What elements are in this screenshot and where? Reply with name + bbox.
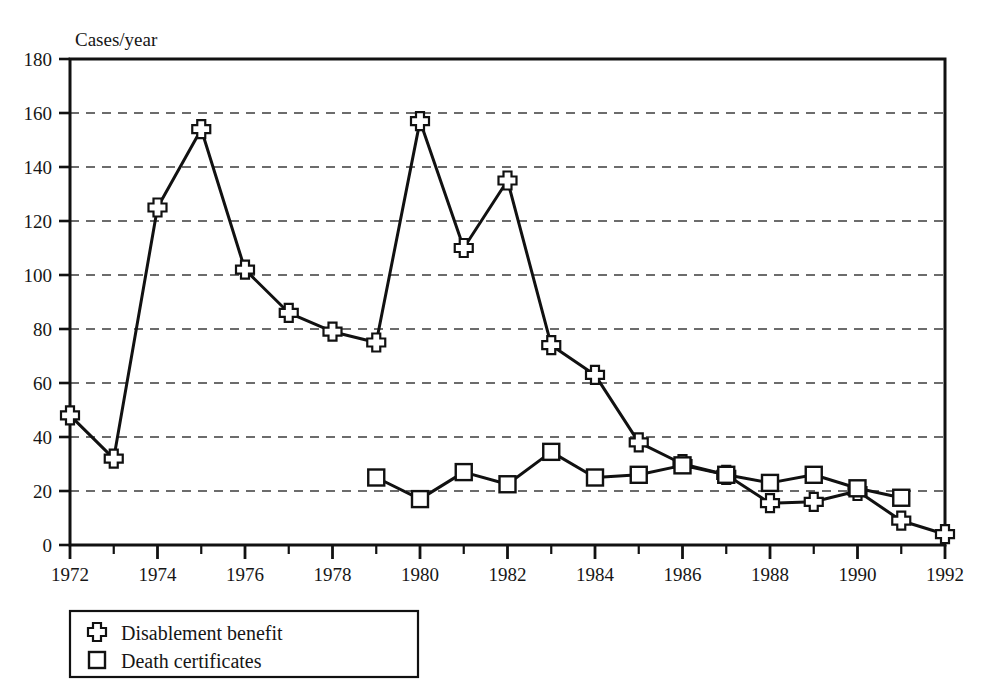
data-point-marker-square <box>806 467 822 483</box>
chart-figure: 0204060801001201401601801972197419761978… <box>0 0 993 692</box>
x-axis-tick-label: 1972 <box>51 564 89 585</box>
data-point-marker-square <box>675 457 691 473</box>
y-axis-tick-label: 180 <box>24 49 53 70</box>
legend-item-label-1: Disablement benefit <box>121 622 283 644</box>
legend-item-label-2: Death certificates <box>121 650 262 672</box>
y-axis-tick-label: 20 <box>33 481 52 502</box>
data-point-marker-cross <box>324 323 342 341</box>
data-point-marker-square <box>718 467 734 483</box>
x-axis-tick-label: 1992 <box>926 564 964 585</box>
x-axis-group: 1972197419761978198019821984198619881990… <box>51 545 964 585</box>
data-point-marker-cross <box>586 366 604 384</box>
data-point-marker-square <box>456 464 472 480</box>
data-point-marker-square <box>368 470 384 486</box>
x-axis-tick-label: 1988 <box>751 564 789 585</box>
x-axis-tick-label: 1978 <box>314 564 352 585</box>
x-axis-tick-label: 1980 <box>401 564 439 585</box>
data-point-marker-cross <box>936 525 954 543</box>
data-point-marker-cross <box>805 493 823 511</box>
data-point-marker-cross <box>149 199 167 217</box>
data-point-marker-square <box>543 444 559 460</box>
data-point-marker-square <box>500 476 516 492</box>
y-axis-tick-label: 100 <box>24 265 53 286</box>
data-point-marker-cross <box>455 239 473 257</box>
data-point-marker-cross <box>411 112 429 130</box>
data-point-marker-cross <box>367 334 385 352</box>
data-point-marker-cross <box>761 494 779 512</box>
y-axis-tick-label: 120 <box>24 211 53 232</box>
y-axis-tick-label: 160 <box>24 103 53 124</box>
legend-marker-square <box>89 652 105 668</box>
gridlines-group <box>70 113 945 491</box>
data-point-marker-cross <box>630 433 648 451</box>
data-point-marker-square <box>587 470 603 486</box>
data-point-marker-square <box>631 467 647 483</box>
data-point-marker-cross <box>542 336 560 354</box>
data-point-marker-cross <box>892 512 910 530</box>
x-axis-tick-label: 1984 <box>576 564 615 585</box>
y-axis-tick-label: 60 <box>33 373 52 394</box>
y-axis-group: 020406080100120140160180 <box>24 49 71 556</box>
y-axis-tick-label: 40 <box>33 427 52 448</box>
data-point-marker-square <box>850 480 866 496</box>
y-axis-unit-label: Cases/year <box>75 29 158 50</box>
x-axis-tick-label: 1976 <box>226 564 264 585</box>
data-point-marker-cross <box>499 172 517 190</box>
legend-box: Disablement benefitDeath certificates <box>70 611 418 677</box>
y-axis-tick-label: 140 <box>24 157 53 178</box>
y-axis-tick-label: 80 <box>33 319 52 340</box>
y-axis-tick-label: 0 <box>43 535 53 556</box>
data-point-marker-cross <box>192 120 210 138</box>
x-axis-tick-label: 1974 <box>139 564 178 585</box>
x-axis-tick-label: 1982 <box>489 564 527 585</box>
line-chart-canvas: 0204060801001201401601801972197419761978… <box>0 0 993 692</box>
data-point-marker-square <box>893 490 909 506</box>
data-point-marker-square <box>762 475 778 491</box>
x-axis-tick-label: 1986 <box>664 564 702 585</box>
x-axis-tick-label: 1990 <box>839 564 877 585</box>
data-point-marker-square <box>412 491 428 507</box>
